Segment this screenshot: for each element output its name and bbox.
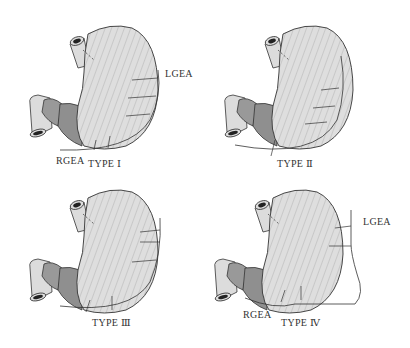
lgea-label: LGEA [165,68,193,79]
panel-type-2: TYPE Ⅱ [205,0,410,174]
lgea-label: LGEA [363,216,391,227]
type-label: TYPE Ⅱ [277,158,313,169]
type-label: TYPE Ⅳ [281,317,320,328]
panel-type-4: LGEA RGEA TYPE Ⅳ [205,174,410,348]
type-label: TYPE Ⅲ [92,317,131,328]
panel-type-1: LGEA RGEA TYPE Ⅰ [0,0,205,174]
panel-type-3: TYPE Ⅲ [0,174,205,348]
rgea-label: RGEA [56,155,84,166]
rgea-label: RGEA [243,309,271,320]
type-label: TYPE Ⅰ [88,158,121,169]
